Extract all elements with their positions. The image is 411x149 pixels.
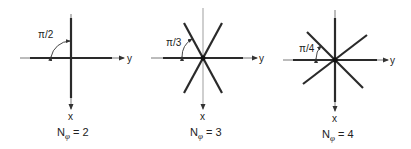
angle-label: π/4 <box>299 43 315 54</box>
y-axis-label: y <box>390 55 395 66</box>
y-axis-label: y <box>127 53 132 64</box>
caption: Nφ = 4 <box>322 128 354 143</box>
x-axis-label: x <box>332 113 337 124</box>
x-axis-label: x <box>200 111 205 122</box>
caption: Nφ = 2 <box>57 126 89 141</box>
center-dot <box>201 56 206 61</box>
diagram-canvas: π/2 y x Nφ = 2 π/3 y x Nφ = 3 π/4 y x Nφ… <box>0 0 411 149</box>
y-axis-label: y <box>259 53 264 64</box>
panel-nphi-2: π/2 y x Nφ = 2 <box>20 14 132 141</box>
caption: Nφ = 3 <box>190 126 222 141</box>
angle-arc <box>182 39 192 57</box>
panel-nphi-3: π/3 y x Nφ = 3 <box>151 8 264 141</box>
angle-label: π/3 <box>166 37 182 48</box>
angle-label: π/2 <box>38 29 54 40</box>
panel-nphi-4: π/4 y x Nφ = 4 <box>283 10 395 143</box>
angle-arc <box>316 46 321 59</box>
center-dot <box>333 58 338 63</box>
angle-arc <box>51 41 70 57</box>
x-axis-label: x <box>68 111 73 122</box>
